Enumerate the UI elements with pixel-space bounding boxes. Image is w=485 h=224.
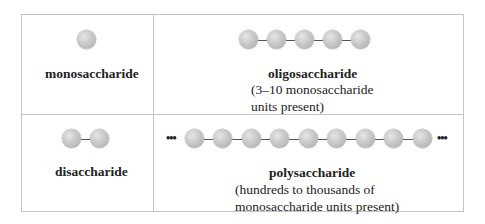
monosaccharide-unit-icon <box>213 129 232 148</box>
monosaccharide-unit-icon <box>299 129 318 148</box>
oligosaccharide-description-line1: (3–10 monosaccharide <box>251 81 374 98</box>
column-divider <box>153 15 154 211</box>
monosaccharide-unit-icon <box>242 129 261 148</box>
monosaccharide-unit-icon <box>77 30 96 49</box>
oligosaccharide-label: oligosaccharide <box>268 66 357 82</box>
monosaccharide-unit-icon <box>239 30 258 49</box>
polysaccharide-description-line2: monosaccharide units present) <box>235 198 399 215</box>
monosaccharide-unit-icon <box>384 129 403 148</box>
polysaccharide-description-line1: (hundreds to thousands of <box>235 181 375 198</box>
monosaccharide-label: monosaccharide <box>45 66 139 82</box>
monosaccharide-unit-icon <box>62 129 81 148</box>
monosaccharide-unit-icon <box>413 129 432 148</box>
monosaccharide-unit-icon <box>356 129 375 148</box>
polysaccharide-label: polysaccharide <box>269 165 355 181</box>
monosaccharide-unit-icon <box>270 129 289 148</box>
monosaccharide-unit-icon <box>185 129 204 148</box>
oligosaccharide-description-line2: units present) <box>251 98 324 115</box>
disaccharide-label: disaccharide <box>55 164 128 180</box>
monosaccharide-unit-icon <box>351 30 370 49</box>
ellipsis-left-icon: ••• <box>166 131 176 146</box>
monosaccharide-unit-icon <box>90 129 109 148</box>
monosaccharide-unit-icon <box>323 30 342 49</box>
monosaccharide-unit-icon <box>295 30 314 49</box>
ellipsis-right-icon: ••• <box>437 131 447 146</box>
monosaccharide-unit-icon <box>267 30 286 49</box>
row-divider <box>22 114 463 115</box>
monosaccharide-unit-icon <box>327 129 346 148</box>
